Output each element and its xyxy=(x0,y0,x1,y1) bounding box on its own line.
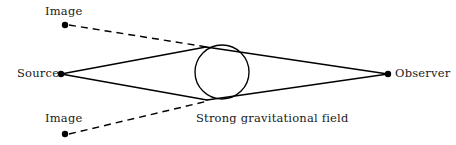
image-bottom-sightline xyxy=(69,101,208,134)
label-image-bottom: Image xyxy=(45,113,82,125)
label-observer: Observer xyxy=(395,68,450,80)
image-top-sightline xyxy=(69,25,207,47)
gravitational-field-circle xyxy=(195,45,249,99)
observer-point-marker xyxy=(385,71,391,77)
label-source: Source xyxy=(17,68,59,80)
gravitational-lensing-figure: Image Image Source Observer Strong gravi… xyxy=(0,0,456,145)
label-gravitational-field: Strong gravitational field xyxy=(196,113,349,125)
label-image-top: Image xyxy=(45,6,82,18)
upper-ray-in-line xyxy=(61,47,206,74)
image-top-point-marker xyxy=(62,22,68,28)
solid-ray-group xyxy=(61,47,388,100)
upper-ray-out-line xyxy=(206,47,388,74)
lower-ray-in-line xyxy=(61,74,207,100)
image-bottom-point-marker xyxy=(62,131,68,137)
